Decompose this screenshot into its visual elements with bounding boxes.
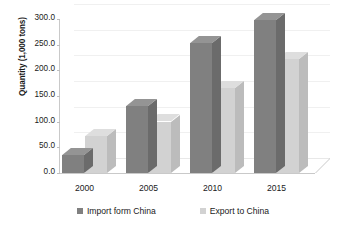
y-axis-tick-mark bbox=[57, 70, 60, 71]
legend-item-export[interactable]: Export to China bbox=[200, 206, 269, 216]
bar-body bbox=[126, 106, 148, 173]
y-axis-tick-mark bbox=[57, 45, 60, 46]
y-axis-tick-labels: 0.050.0100.0150.0200.0250.0300.0 bbox=[17, 0, 55, 231]
legend-swatch-icon bbox=[77, 208, 83, 214]
y-axis-tick-mark bbox=[57, 147, 60, 148]
x-axis-label-2015: 2015 bbox=[246, 183, 307, 193]
bar-front-face bbox=[254, 20, 276, 173]
y-axis-tick-mark bbox=[57, 96, 60, 97]
legend-label: Export to China bbox=[210, 206, 269, 216]
y-axis-tick-mark bbox=[57, 19, 60, 20]
bar-side-face bbox=[107, 129, 116, 173]
plot-area: 0.050.0100.0150.0200.0250.0300.0 2000200… bbox=[0, 0, 346, 231]
bar-body bbox=[62, 155, 84, 173]
legend-item-import[interactable]: Import form China bbox=[77, 206, 156, 216]
x-axis-label-2010: 2010 bbox=[182, 183, 243, 193]
y-axis-tick-label: 150.0 bbox=[21, 90, 55, 99]
bar bbox=[62, 155, 84, 173]
x-axis-label-2000: 2000 bbox=[54, 183, 115, 193]
bar bbox=[190, 43, 212, 173]
y-axis-tick-label: 300.0 bbox=[21, 13, 55, 22]
y-axis-tick-label: 200.0 bbox=[21, 64, 55, 73]
bar-side-face bbox=[299, 52, 308, 173]
y-axis-tick-label: 50.0 bbox=[21, 141, 55, 150]
y-axis-tick-label: 100.0 bbox=[21, 116, 55, 125]
bar-side-face bbox=[212, 36, 221, 173]
gridline bbox=[74, 4, 330, 5]
x-axis-label-2005: 2005 bbox=[118, 183, 179, 193]
bar-front-face bbox=[190, 43, 212, 173]
bar-body bbox=[190, 43, 212, 173]
bar bbox=[254, 20, 276, 173]
floor-front-edge bbox=[60, 173, 315, 174]
y-axis-tick-label: 250.0 bbox=[21, 39, 55, 48]
y-axis-tick-mark bbox=[57, 173, 60, 174]
bar-side-face bbox=[276, 13, 285, 173]
bar-side-face bbox=[148, 99, 157, 173]
gridline bbox=[74, 30, 330, 31]
bar-front-face bbox=[126, 106, 148, 173]
bar-side-face bbox=[235, 81, 244, 173]
floor-right-edge bbox=[315, 158, 331, 174]
bar-side-face bbox=[171, 115, 180, 173]
bar-body bbox=[254, 20, 276, 173]
bar-front-face bbox=[62, 155, 84, 173]
legend-label: Import form China bbox=[87, 206, 156, 216]
legend-swatch-icon bbox=[200, 208, 206, 214]
bar bbox=[126, 106, 148, 173]
y-axis-tick-label: 0.0 bbox=[21, 167, 55, 176]
chart-container: Quantity (1,000 tons) 0.050.0100.0150.02… bbox=[0, 0, 346, 231]
y-axis-tick-mark bbox=[57, 122, 60, 123]
chart-legend: Import form ChinaExport to China bbox=[0, 206, 346, 216]
